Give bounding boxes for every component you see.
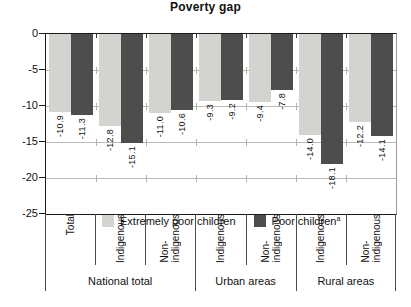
legend-item-extremely-poor-children: Extremely poor children — [102, 215, 236, 227]
bar-pair: -9.4-7.8 — [249, 34, 293, 214]
y-tick — [39, 105, 45, 106]
bar-extremely-poor-children — [249, 34, 271, 102]
y-tick-label: -20 — [0, 171, 38, 183]
bar-pair: -12.2-14.1 — [349, 34, 393, 214]
bar-value-label-wrap: -18.1 — [315, 167, 349, 189]
group-label: Urban areas — [195, 275, 295, 287]
bar-poor-children — [171, 34, 193, 110]
chart-title: Poverty gap — [0, 0, 411, 14]
bar-poor-children — [71, 34, 93, 115]
bar-value-label: -11.3 — [77, 118, 87, 139]
bar-pair: -9.3-9.2 — [199, 34, 243, 214]
x-category-label: Non- indigenous — [360, 214, 382, 266]
y-tick — [39, 69, 45, 70]
bar-extremely-poor-children — [299, 34, 321, 135]
category-slot: -9.4-7.8 — [246, 34, 296, 214]
footnote-marker-a: a — [336, 215, 340, 222]
bar-value-label-wrap: -14.1 — [365, 139, 399, 161]
bar-wrap: -9.3 — [199, 34, 221, 214]
category-slot: -9.3-9.2 — [196, 34, 246, 214]
bar-wrap: -9.4 — [249, 34, 271, 214]
legend-swatch-poor — [254, 215, 266, 227]
bar-poor-children — [371, 34, 393, 136]
category-slot: -12.2-14.1 — [346, 34, 396, 214]
bar-poor-children — [321, 34, 343, 164]
bar-value-label: -7.8 — [277, 93, 287, 110]
bar-wrap: -11.3 — [71, 34, 93, 214]
legend-item-poor-children: Poor childrena — [254, 215, 341, 227]
y-tick-label: -25 — [0, 207, 38, 219]
bar-value-label: -9.4 — [255, 105, 265, 122]
bar-pair: -12.8-15.1 — [99, 34, 143, 214]
bar-value-label: -10.9 — [55, 115, 65, 137]
bar-value-label: -12.8 — [105, 129, 115, 151]
category-slot: -11.0-10.6 — [146, 34, 196, 214]
bar-value-label-wrap: -15.1 — [115, 146, 149, 168]
bar-extremely-poor-children — [49, 34, 71, 112]
x-category-slot: Non- indigenous — [346, 214, 396, 266]
bar-poor-children — [221, 34, 243, 100]
bar-wrap: -12.2 — [349, 34, 371, 214]
bar-pair: -11.0-10.6 — [149, 34, 193, 214]
category-slot: -10.9-11.3 — [46, 34, 96, 214]
bar-extremely-poor-children — [99, 34, 121, 126]
bar-value-label-wrap: -7.8 — [265, 93, 299, 110]
bar-poor-children — [271, 34, 293, 90]
bar-extremely-poor-children — [349, 34, 371, 122]
bar-value-label: -12.2 — [355, 125, 365, 147]
bar-wrap: -18.1 — [321, 34, 343, 214]
bar-value-label: -11.0 — [155, 116, 165, 137]
legend: Extremely poor children Poor childrena — [102, 215, 340, 227]
bar-pair: -10.9-11.3 — [49, 34, 93, 214]
group-label: National total — [45, 275, 195, 287]
group-label: Rural areas — [296, 275, 396, 287]
bar-value-label: -10.6 — [177, 113, 187, 135]
legend-swatch-extremely-poor — [102, 215, 114, 227]
y-tick — [39, 177, 45, 178]
bar-value-label: -18.1 — [327, 167, 337, 189]
bar-wrap: -9.2 — [221, 34, 243, 214]
bar-value-label: -15.1 — [127, 146, 137, 168]
bar-poor-children — [121, 34, 143, 143]
bar-value-label: -9.3 — [205, 104, 215, 121]
bar-pair: -14.0-18.1 — [299, 34, 343, 214]
poverty-gap-figure: Poverty gap -10.9-11.3-12.8-15.1-11.0-10… — [0, 0, 411, 307]
category-separator — [95, 214, 96, 265]
legend-label-poor: Poor childrena — [272, 215, 341, 227]
bar-extremely-poor-children — [199, 34, 221, 101]
bar-value-label: -14.0 — [305, 138, 315, 160]
y-tick — [39, 33, 45, 34]
bar-value-label: -9.2 — [227, 103, 237, 120]
bar-wrap: -12.8 — [99, 34, 121, 214]
bar-value-label: -14.1 — [377, 139, 387, 161]
plot-area: -10.9-11.3-12.8-15.1-11.0-10.6-9.3-9.2-9… — [45, 33, 397, 215]
bar-wrap: -7.8 — [271, 34, 293, 214]
y-tick-label: -5 — [0, 63, 38, 75]
y-tick — [39, 141, 45, 142]
x-category-label: Total — [65, 214, 76, 239]
bars-layer: -10.9-11.3-12.8-15.1-11.0-10.6-9.3-9.2-9… — [46, 34, 396, 214]
category-separator — [346, 214, 347, 265]
bar-wrap: -15.1 — [121, 34, 143, 214]
y-tick-label: -15 — [0, 135, 38, 147]
bar-wrap: -10.6 — [171, 34, 193, 214]
category-slot: -12.8-15.1 — [96, 34, 146, 214]
category-slot: -14.0-18.1 — [296, 34, 346, 214]
bar-wrap: -14.1 — [371, 34, 393, 214]
y-tick-label: -10 — [0, 99, 38, 111]
y-tick-label: 0 — [0, 27, 38, 39]
bar-extremely-poor-children — [149, 34, 171, 113]
x-category-slot: Total — [45, 214, 95, 266]
legend-label-extremely-poor: Extremely poor children — [120, 215, 236, 227]
